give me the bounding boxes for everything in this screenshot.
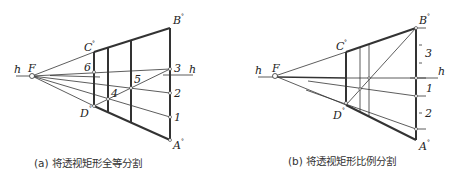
label-ratio-3: 3: [425, 47, 432, 60]
label-f-b: F: [271, 62, 280, 75]
ray-f-to-1: [32, 76, 170, 117]
point-2: [169, 92, 172, 95]
ray-f-to-d: [32, 76, 94, 106]
point-b-b: [415, 27, 418, 30]
point-d-b: [345, 102, 348, 105]
label-3: 3: [174, 62, 181, 75]
figure-a-labels: h F C ° D ° B ° A ° 6 4 5 3 2 1 h (a) 将透…: [14, 12, 196, 169]
ray-f-to-2: [32, 76, 170, 93]
label-d: D: [79, 107, 89, 120]
ray-to-bottom-b: [306, 90, 416, 129]
label-ratio-1: 1: [426, 82, 433, 95]
label-1: 1: [174, 111, 181, 124]
label-a: A: [172, 139, 181, 152]
point-d: [93, 105, 96, 108]
label-6: 6: [84, 61, 91, 74]
figure-a: [16, 28, 193, 142]
caption-b: (b) 将透视矩形比例分割: [288, 155, 396, 167]
ray-f-to-c-b: [275, 52, 346, 76]
edge-d-a-b: [346, 105, 416, 140]
label-2: 2: [173, 87, 181, 100]
horizon-line-inner: [50, 76, 100, 78]
label-ratio-2: 2: [424, 107, 432, 120]
label-a-b: A: [418, 140, 427, 153]
point-h-b: [415, 77, 418, 80]
label-b-b: B: [418, 14, 427, 27]
point-4: [107, 98, 110, 101]
horizon-line-thick-b: [277, 77, 346, 78]
label-f: F: [27, 62, 36, 75]
label-h-left-b: h: [255, 64, 262, 77]
ray-f-to-3: [32, 69, 170, 76]
label-b-deg-b: °: [427, 12, 430, 19]
ray-to-1-b: [308, 81, 416, 96]
label-d-deg: °: [89, 104, 92, 111]
point-6: [93, 71, 96, 74]
point-1: [169, 116, 172, 119]
label-b-deg: °: [181, 12, 184, 19]
label-a-deg: °: [181, 137, 184, 144]
label-d-deg-b: °: [342, 106, 345, 113]
label-c-deg: °: [92, 39, 95, 46]
label-a-deg-b: °: [427, 138, 430, 145]
label-h-left: h: [14, 63, 21, 76]
label-h-right: h: [189, 63, 196, 76]
label-b: B: [172, 14, 181, 27]
label-h-right-b: h: [438, 65, 445, 78]
caption-a: (a) 将透视矩形全等分割: [34, 157, 142, 169]
label-c-deg-b: °: [344, 38, 347, 45]
point-3: [169, 68, 172, 71]
point-int-2-b: [359, 88, 361, 90]
label-5: 5: [134, 73, 141, 86]
point-int-1-b: [368, 77, 370, 79]
point-bottom-b: [415, 128, 418, 131]
point-1-b: [415, 95, 418, 98]
label-d-b: D: [332, 109, 342, 122]
point-a: [169, 139, 172, 142]
point-5: [130, 87, 133, 90]
label-4: 4: [110, 87, 118, 100]
figure-b: [258, 27, 438, 141]
perspective-division-diagrams: h F C ° D ° B ° A ° 6 4 5 3 2 1 h (a) 将透…: [0, 0, 451, 180]
